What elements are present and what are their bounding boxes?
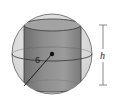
height-dimension: h (99, 25, 107, 85)
cylinder-top (24, 19, 81, 31)
height-label: h (100, 50, 105, 61)
radius-label: 6 (35, 55, 40, 65)
center-point (50, 52, 54, 56)
sphere-cylinder-diagram: 6 h (0, 0, 115, 103)
